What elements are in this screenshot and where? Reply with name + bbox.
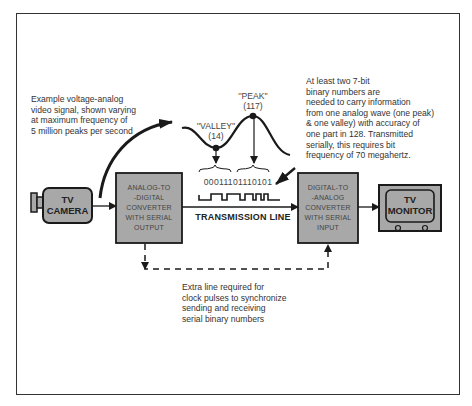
- binary-requirement-note: At least two 7-bit binary numbers are ne…: [306, 76, 434, 161]
- valley-value: (14): [184, 131, 248, 141]
- camera-label: TV CAMERA: [43, 194, 92, 216]
- analog-signal-note: Example voltage-analog video signal, sho…: [31, 94, 136, 136]
- valley-dot: [213, 145, 220, 152]
- peak-value: (117): [225, 101, 281, 111]
- peak-brace: [237, 165, 269, 172]
- binary-string: 00011101110101: [196, 177, 280, 187]
- peak-label: ''PEAK'': [225, 91, 281, 101]
- monitor-label: TV MONITOR: [386, 194, 434, 216]
- clock-line-note: Extra line required for clock pulses to …: [182, 282, 287, 324]
- adc-label: ANALOG-TO -DIGITAL CONVERTER WITH SERIAL…: [116, 183, 182, 233]
- transmission-line-label: TRANSMISSION LINE: [188, 212, 298, 222]
- valley-brace: [199, 165, 231, 172]
- clock-dashed-line: [145, 244, 328, 269]
- peak-dot: [250, 113, 257, 120]
- clock-up-arrowhead: [324, 244, 332, 252]
- valley-label: ''VALLEY'': [184, 121, 248, 131]
- dac-label: DIGITAL-TO -ANALOG CONVERTER WITH SERIAL…: [298, 183, 358, 233]
- pulse-train: [199, 194, 280, 200]
